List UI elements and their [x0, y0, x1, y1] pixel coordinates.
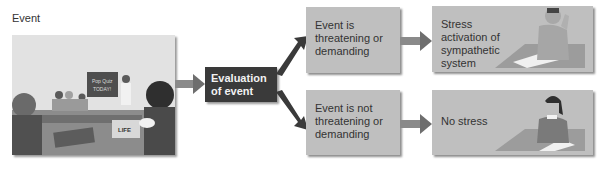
svg-text:Pop Quiz: Pop Quiz [92, 78, 113, 84]
event-label: Event [12, 12, 40, 24]
classroom-illustration: Pop Quiz TODAY! LIFE [12, 35, 175, 155]
evaluation-box: Evaluation of event [205, 67, 277, 102]
relaxed-student-illustration [495, 91, 585, 151]
arrow-icon [400, 113, 434, 135]
arrow-icon [400, 30, 434, 52]
arrow-icon [175, 72, 207, 96]
branch-arrows-icon [276, 28, 310, 138]
stress-activation-box: Stress activation of sympathetic system [432, 6, 593, 72]
threatening-box: Event is threatening or demanding [306, 7, 400, 73]
no-stress-box: No stress [432, 90, 593, 155]
not-threatening-box: Event is not threatening or demanding [306, 90, 400, 155]
svg-text:LIFE: LIFE [118, 127, 131, 133]
stressed-student-illustration [495, 4, 585, 68]
svg-text:TODAY!: TODAY! [93, 86, 111, 92]
event-photo: Pop Quiz TODAY! LIFE [12, 35, 175, 155]
